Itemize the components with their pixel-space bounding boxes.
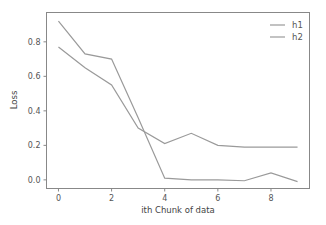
legend: h1h2 bbox=[270, 20, 303, 42]
x-tick-label: 0 bbox=[56, 194, 61, 203]
y-axis-label: Loss bbox=[9, 90, 19, 109]
x-axis-ticks: 02468 bbox=[56, 189, 274, 203]
y-tick-label: 0.4 bbox=[28, 107, 41, 116]
y-tick-label: 0.8 bbox=[28, 38, 41, 47]
y-tick-label: 0.0 bbox=[28, 176, 41, 185]
legend-label-h2: h2 bbox=[292, 32, 303, 42]
plot-frame bbox=[47, 13, 310, 189]
series-line-h1 bbox=[58, 21, 297, 181]
loss-line-chart: 0.00.20.40.60.8 02468 ith Chunk of data … bbox=[0, 0, 326, 225]
legend-label-h1: h1 bbox=[292, 20, 303, 30]
x-axis-label: ith Chunk of data bbox=[141, 205, 215, 215]
series-line-h2 bbox=[58, 47, 297, 147]
series-lines bbox=[58, 21, 297, 181]
y-tick-label: 0.6 bbox=[28, 72, 41, 81]
y-tick-label: 0.2 bbox=[28, 141, 41, 150]
y-axis-ticks: 0.00.20.40.60.8 bbox=[28, 38, 47, 185]
x-tick-label: 4 bbox=[162, 194, 167, 203]
x-tick-label: 6 bbox=[215, 194, 220, 203]
x-tick-label: 8 bbox=[268, 194, 273, 203]
x-tick-label: 2 bbox=[109, 194, 114, 203]
